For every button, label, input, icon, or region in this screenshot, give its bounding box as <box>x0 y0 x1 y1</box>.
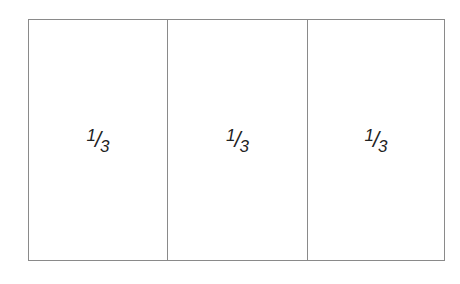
section-3: 1/3 <box>307 20 444 260</box>
fraction-denominator: 3 <box>100 137 109 156</box>
fraction-numerator: 1 <box>226 126 235 145</box>
section-1: 1/3 <box>29 20 167 260</box>
fraction-label: 1/3 <box>86 129 109 151</box>
fraction-denominator: 3 <box>378 137 387 156</box>
section-2: 1/3 <box>167 20 307 260</box>
fraction-denominator: 3 <box>240 137 249 156</box>
divided-rectangle: 1/3 1/3 1/3 <box>28 19 445 261</box>
fraction-label: 1/3 <box>226 129 249 151</box>
fraction-label: 1/3 <box>364 129 387 151</box>
fraction-numerator: 1 <box>364 126 373 145</box>
fraction-numerator: 1 <box>86 126 95 145</box>
